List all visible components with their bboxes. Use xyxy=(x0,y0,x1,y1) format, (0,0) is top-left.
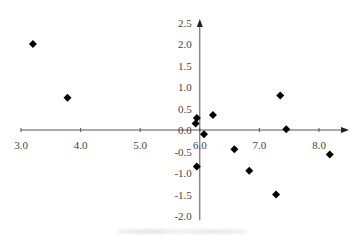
y-axis-arrow-icon xyxy=(197,19,203,27)
x-tick-label: 5.0 xyxy=(133,139,147,151)
x-tick-label: 4.0 xyxy=(74,139,88,151)
y-tick-label: 2.5 xyxy=(178,17,192,29)
diamond-marker-icon xyxy=(272,191,280,199)
diamond-marker-icon xyxy=(192,120,200,128)
x-tick-label: 6.0 xyxy=(193,139,207,151)
y-tick-label: 0.0 xyxy=(178,124,192,136)
diamond-marker-icon xyxy=(245,167,253,175)
x-tick-label: 3.0 xyxy=(14,139,28,151)
y-tick-label: -0.5 xyxy=(174,146,192,158)
diamond-marker-icon xyxy=(230,145,238,153)
chart-caption xyxy=(118,229,246,234)
y-tick-label: 0.5 xyxy=(178,103,192,115)
diamond-marker-icon xyxy=(29,40,37,48)
y-tick-label: 1.0 xyxy=(178,81,192,93)
diamond-marker-icon xyxy=(282,125,290,133)
y-tick-label: -2.0 xyxy=(174,210,192,222)
diamond-marker-icon xyxy=(209,111,217,119)
x-axis-arrow-icon xyxy=(341,127,349,133)
diamond-marker-icon xyxy=(63,94,71,102)
diamond-marker-icon xyxy=(200,130,208,138)
x-tick-label: 7.0 xyxy=(253,139,267,151)
x-tick-label: 8.0 xyxy=(312,139,326,151)
y-tick-label: -1.0 xyxy=(174,167,192,179)
diamond-marker-icon xyxy=(326,151,334,159)
y-tick-label: 2.0 xyxy=(178,38,192,50)
y-tick-label: -1.5 xyxy=(174,189,192,201)
scatter-chart: 3.04.05.06.07.08.0 2.52.01.51.00.50.0-0.… xyxy=(0,0,361,238)
x-tick-labels: 3.04.05.06.07.08.0 xyxy=(14,139,326,151)
diamond-marker-icon xyxy=(276,92,284,100)
y-tick-labels: 2.52.01.51.00.50.0-0.5-1.0-1.5-2.0 xyxy=(174,17,192,223)
y-tick-label: 1.5 xyxy=(178,60,192,72)
